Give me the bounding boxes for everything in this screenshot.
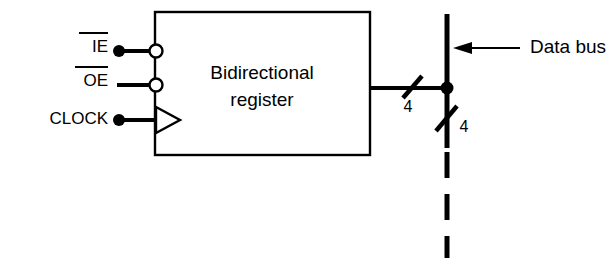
input-ie: IE [79, 33, 163, 58]
bus-width-marker-register: 4 [403, 76, 422, 115]
bus-width-label-downstream: 4 [460, 118, 469, 135]
input-oe-inverting-bubble [150, 79, 163, 92]
data-bus-label: Data bus [530, 36, 606, 57]
input-ie-label: IE [92, 37, 108, 56]
register-label-line1: Bidirectional [210, 62, 314, 83]
circuit-diagram: Bidirectional register IE OE CLOCK [0, 0, 608, 273]
data-bus-arrow-icon [453, 42, 472, 54]
diagram-canvas: Bidirectional register IE OE CLOCK [0, 0, 608, 273]
bidirectional-register-box [155, 12, 370, 155]
input-oe-label: OE [83, 71, 108, 90]
bus-width-marker-downstream: 4 [436, 106, 469, 135]
input-clock: CLOCK [49, 107, 180, 133]
register-label-line2: register [230, 89, 294, 110]
input-clock-label: CLOCK [49, 109, 108, 128]
bus-width-label-register: 4 [404, 98, 413, 115]
data-bus-callout: Data bus [453, 36, 606, 57]
data-bus-junction-dot [441, 82, 454, 95]
input-oe: OE [75, 67, 163, 92]
input-ie-inverting-bubble [150, 45, 163, 58]
